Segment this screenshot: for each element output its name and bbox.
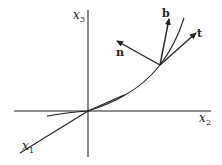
svg-text:3: 3 (80, 15, 85, 24)
svg-text:x: x (199, 111, 206, 125)
normal-label: n (116, 46, 124, 59)
x3-label: x 3 (73, 8, 85, 24)
binormal-label: b (162, 7, 170, 20)
svg-text:1: 1 (29, 146, 34, 155)
svg-text:2: 2 (206, 118, 211, 127)
tangent-label: t (197, 27, 203, 40)
origin-tangent-line (88, 95, 124, 111)
x2-label: x 2 (199, 111, 211, 127)
x1-label: x 1 (22, 139, 34, 155)
space-curve (47, 18, 184, 116)
frenet-frame-diagram: x 3 x 2 x 1 b t n (0, 0, 222, 165)
svg-text:x: x (22, 139, 29, 153)
svg-text:x: x (73, 8, 80, 22)
